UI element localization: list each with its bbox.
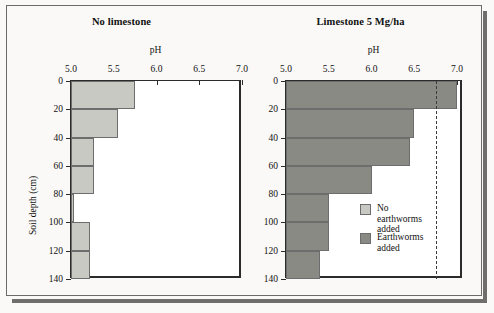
y-tick-label-40: 40	[54, 133, 64, 143]
figure-frame-shadow-bottom	[12, 299, 486, 303]
y-tick-label-80: 80	[269, 189, 279, 199]
bar-no-limestone-no-earthworms-added-100-120	[71, 222, 90, 250]
x-tick-label-6.0: 6.0	[366, 64, 378, 74]
figure-canvas: No limestone pH Soil depth (cm) 5.05.56.…	[0, 0, 494, 313]
y-tick-label-120: 120	[264, 246, 278, 256]
x-tick-label-7.0: 7.0	[451, 64, 463, 74]
x-tick-label-6.0: 6.0	[151, 64, 163, 74]
bar-no-limestone-no-earthworms-added-0-20	[71, 81, 135, 109]
y-tick-label-0: 0	[273, 76, 278, 86]
x-axis-title-right: pH	[285, 45, 462, 55]
plot-area-no-limestone: 5.05.56.06.57.0020406080100120140	[70, 80, 241, 278]
plot-area-limestone: 5.05.56.06.57.0020406080100120140No eart…	[285, 80, 462, 278]
x-tick-6.0	[157, 80, 158, 85]
y-tick-label-100: 100	[264, 217, 278, 227]
x-tick-label-6.5: 6.5	[408, 64, 420, 74]
y-tick-label-20: 20	[269, 104, 279, 114]
x-tick-label-5.0: 5.0	[65, 64, 77, 74]
y-tick-label-60: 60	[269, 161, 279, 171]
x-tick-7.0	[242, 80, 243, 85]
x-tick-6.5	[199, 80, 200, 85]
y-tick-140	[281, 279, 286, 280]
y-tick-label-120: 120	[49, 246, 63, 256]
panel-no-limestone: No limestone pH Soil depth (cm) 5.05.56.…	[6, 0, 249, 291]
y-tick-label-20: 20	[54, 104, 64, 114]
panel-title-limestone: Limestone 5 Mg/ha	[241, 16, 480, 27]
x-tick-label-5.5: 5.5	[323, 64, 335, 74]
bar-limestone-5-mg-ha-earthworms-added-0-20	[286, 81, 457, 109]
bar-no-limestone-no-earthworms-added-40-60	[71, 138, 94, 166]
bar-limestone-5-mg-ha-earthworms-added-80-100	[286, 194, 329, 222]
legend-item-1[interactable]: Earthworms added	[360, 232, 423, 253]
bar-no-limestone-no-earthworms-added-80-100	[71, 194, 74, 222]
y-tick-label-80: 80	[54, 189, 64, 199]
panel-title-no-limestone: No limestone	[0, 16, 243, 27]
bar-no-limestone-no-earthworms-added-120-140	[71, 251, 90, 279]
x-tick-7.0	[457, 80, 458, 85]
x-axis-title-left: pH	[70, 45, 241, 55]
legend-label-1: Earthworms added	[377, 232, 423, 253]
bar-limestone-5-mg-ha-earthworms-added-100-120	[286, 222, 329, 250]
y-tick-label-0: 0	[58, 76, 63, 86]
legend-swatch-1	[360, 233, 371, 244]
y-tick-label-140: 140	[49, 274, 63, 284]
bar-limestone-5-mg-ha-earthworms-added-40-60	[286, 138, 410, 166]
x-tick-label-5.0: 5.0	[280, 64, 292, 74]
legend-swatch-0	[360, 204, 371, 215]
legend-item-0[interactable]: No earthworms added	[360, 203, 422, 235]
reference-line	[436, 81, 437, 279]
x-tick-label-7.0: 7.0	[236, 64, 248, 74]
x-tick-label-5.5: 5.5	[108, 64, 120, 74]
bar-no-limestone-no-earthworms-added-60-80	[71, 166, 94, 194]
bar-limestone-5-mg-ha-earthworms-added-20-40	[286, 109, 414, 137]
panel-limestone: Limestone 5 Mg/ha pH 5.05.56.06.57.00204…	[249, 0, 488, 291]
bar-no-limestone-no-earthworms-added-20-40	[71, 109, 118, 137]
y-axis-title-left: Soil depth (cm)	[28, 176, 38, 235]
bar-limestone-5-mg-ha-earthworms-added-60-80	[286, 166, 372, 194]
y-tick-140	[66, 279, 71, 280]
y-tick-label-60: 60	[54, 161, 64, 171]
y-tick-label-100: 100	[49, 217, 63, 227]
bar-limestone-5-mg-ha-earthworms-added-120-140	[286, 251, 320, 279]
y-tick-label-140: 140	[264, 274, 278, 284]
x-tick-label-6.5: 6.5	[193, 64, 205, 74]
y-tick-label-40: 40	[269, 133, 279, 143]
legend-label-0: No earthworms added	[377, 203, 422, 235]
